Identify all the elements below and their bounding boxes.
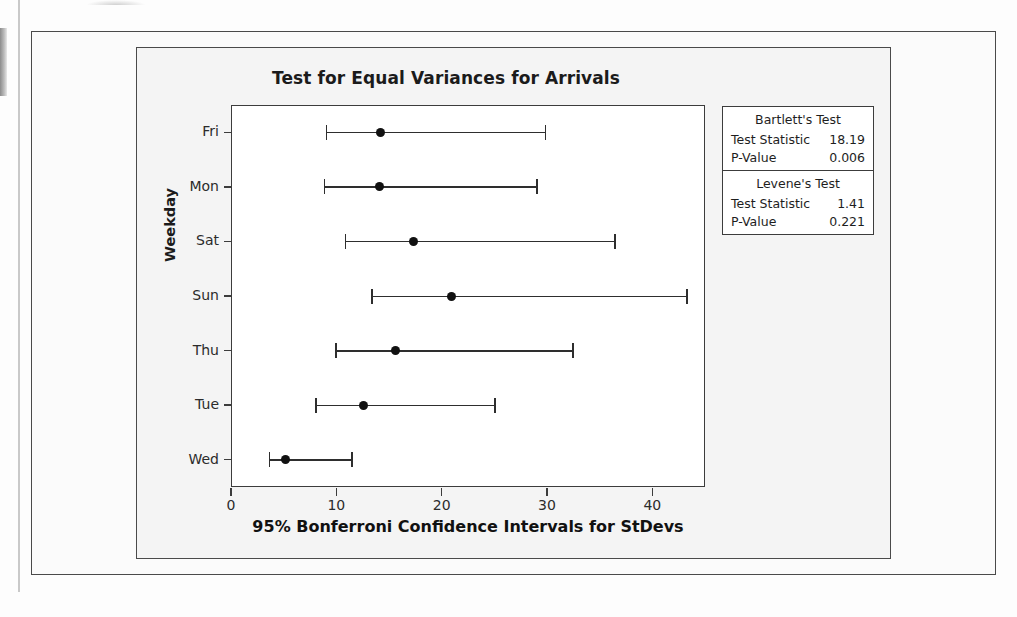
stats-block-1: Bartlett's TestTest Statistic18.19P-Valu… — [723, 107, 873, 170]
interval-line — [335, 350, 572, 352]
stats-row: Test Statistic18.19 — [723, 131, 873, 149]
interval-lower-cap — [335, 343, 337, 358]
stats-row-value: 1.41 — [837, 196, 865, 211]
interval-lower-cap — [371, 289, 373, 304]
interval-line — [371, 296, 686, 298]
interval-center-marker — [409, 237, 418, 246]
interval-upper-cap — [572, 343, 574, 358]
stats-row-label: P-Value — [731, 214, 776, 229]
interval-upper-cap — [686, 289, 688, 304]
interval-upper-cap — [494, 398, 496, 413]
stats-row-label: Test Statistic — [731, 132, 810, 147]
interval-lower-cap — [345, 234, 347, 249]
stats-block-heading: Bartlett's Test — [723, 107, 873, 131]
interval-line — [326, 132, 545, 134]
interval-lower-cap — [324, 179, 326, 194]
scan-artifact-top-smudge — [86, 0, 146, 5]
interval-line — [324, 186, 537, 188]
confidence-interval-wed — [0, 452, 1017, 467]
stats-block-heading: Levene's Test — [723, 171, 873, 195]
stats-row: Test Statistic1.41 — [723, 195, 873, 213]
x-tick-label-20: 20 — [433, 497, 451, 513]
interval-upper-cap — [351, 452, 353, 467]
interval-lower-cap — [326, 125, 328, 140]
x-axis-title: 95% Bonferroni Confidence Intervals for … — [231, 517, 705, 536]
y-axis-title: Weekday — [162, 188, 178, 262]
x-tick-mark — [546, 488, 548, 496]
x-tick-mark — [230, 488, 232, 496]
x-tick-label-30: 30 — [538, 497, 556, 513]
interval-lower-cap — [315, 398, 317, 413]
interval-upper-cap — [614, 234, 616, 249]
interval-upper-cap — [536, 179, 538, 194]
x-tick-mark — [336, 488, 338, 496]
x-tick-mark — [441, 488, 443, 496]
x-tick-label-40: 40 — [643, 497, 661, 513]
stats-row-label: P-Value — [731, 150, 776, 165]
interval-center-marker — [359, 401, 368, 410]
interval-line — [345, 241, 615, 243]
interval-upper-cap — [545, 125, 547, 140]
x-tick-label-0: 0 — [227, 497, 236, 513]
interval-lower-cap — [269, 452, 271, 467]
interval-line — [315, 405, 494, 407]
stats-block-2: Levene's TestTest Statistic1.41P-Value0.… — [723, 170, 873, 234]
stats-row: P-Value0.221 — [723, 213, 873, 234]
confidence-interval-sun — [0, 289, 1017, 304]
chart-title: Test for Equal Variances for Arrivals — [136, 68, 756, 88]
interval-center-marker — [447, 292, 456, 301]
stats-row-value: 0.221 — [829, 214, 865, 229]
interval-center-marker — [281, 455, 290, 464]
x-tick-label-10: 10 — [327, 497, 345, 513]
interval-center-marker — [376, 128, 385, 137]
scan-artifact-left-block — [0, 28, 7, 96]
stats-row: P-Value0.006 — [723, 149, 873, 170]
interval-center-marker — [375, 182, 384, 191]
x-tick-mark — [652, 488, 654, 496]
stats-table: Bartlett's TestTest Statistic18.19P-Valu… — [722, 106, 874, 235]
interval-center-marker — [391, 346, 400, 355]
confidence-interval-tue — [0, 398, 1017, 413]
stats-row-value: 18.19 — [829, 132, 865, 147]
stats-row-label: Test Statistic — [731, 196, 810, 211]
stats-row-value: 0.006 — [829, 150, 865, 165]
confidence-interval-sat — [0, 234, 1017, 249]
confidence-interval-thu — [0, 343, 1017, 358]
